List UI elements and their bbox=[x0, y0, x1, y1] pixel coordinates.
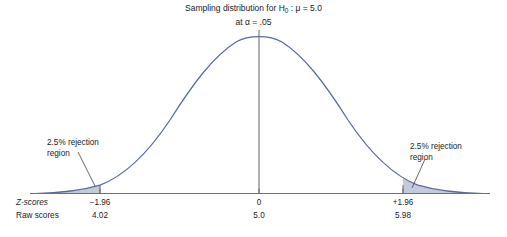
right-rejection-annotation-line2: region bbox=[410, 153, 462, 164]
figure-title: Sampling distribution for H0 : μ = 5.0 a… bbox=[0, 3, 507, 28]
right-rejection-annotation-line1: 2.5% rejection bbox=[410, 142, 462, 153]
title-line-hypothesis: Sampling distribution for H0 : μ = 5.0 bbox=[0, 3, 507, 17]
raw-score-value-1: 5.0 bbox=[253, 211, 264, 220]
left-rejection-annotation: 2.5% rejection region bbox=[47, 138, 99, 159]
left-rejection-annotation-line2: region bbox=[47, 149, 99, 160]
z-score-value-0: −1.96 bbox=[90, 198, 111, 207]
z-score-value-2: +1.96 bbox=[393, 198, 414, 207]
right-rejection-annotation: 2.5% rejection region bbox=[410, 142, 462, 163]
right-annotation-leader-line bbox=[412, 159, 425, 188]
z-score-value-1: 0 bbox=[257, 198, 262, 207]
left-rejection-annotation-line1: 2.5% rejection bbox=[47, 138, 99, 149]
z-scores-row-label-text: Z-scores bbox=[16, 198, 48, 207]
distribution-plot bbox=[0, 0, 507, 237]
title-line-alpha: at α = .05 bbox=[0, 17, 507, 29]
raw-score-value-0: 4.02 bbox=[92, 211, 108, 220]
title-suffix: : μ = 5.0 bbox=[288, 3, 322, 13]
z-scores-row-label: Z-scores bbox=[16, 198, 48, 207]
raw-score-value-2: 5.98 bbox=[395, 211, 411, 220]
title-prefix: Sampling distribution for H bbox=[185, 3, 285, 13]
sampling-distribution-figure: Sampling distribution for H0 : μ = 5.0 a… bbox=[0, 0, 507, 237]
raw-scores-row-label: Raw scores bbox=[16, 211, 59, 220]
